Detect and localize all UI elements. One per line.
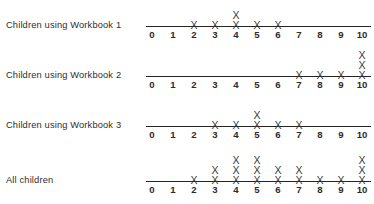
axis-tick-label: 0: [143, 29, 161, 41]
axis-tick-label: 9: [332, 129, 350, 141]
data-point-stack: X: [311, 175, 329, 185]
data-point-mark: X: [269, 175, 287, 185]
data-point-stack: X: [269, 120, 287, 130]
axis-tick-label: 4: [227, 79, 245, 91]
series-label: Children using Workbook 1: [6, 20, 121, 31]
data-point-mark: X: [185, 20, 203, 30]
data-point-stack: XXX: [248, 155, 266, 185]
data-point-mark: X: [332, 70, 350, 80]
data-point-mark: X: [185, 175, 203, 185]
data-point-mark: X: [269, 20, 287, 30]
axis-tick-label: 10: [353, 29, 371, 41]
data-point-stack: X: [248, 20, 266, 30]
data-point-mark: X: [311, 175, 329, 185]
axis-tick-label: 6: [269, 79, 287, 91]
series-label: Children using Workbook 2: [6, 70, 121, 81]
data-point-mark: X: [248, 175, 266, 185]
axis-tick-label: 2: [185, 129, 203, 141]
axis-tick-label: 5: [248, 79, 266, 91]
axis-tick-label: 10: [353, 129, 371, 141]
axis-tick-label: 8: [311, 129, 329, 141]
data-point-stack: X: [311, 70, 329, 80]
data-point-mark: X: [248, 120, 266, 130]
data-point-stack: XXX: [227, 155, 245, 185]
data-point-stack: XX: [206, 165, 224, 185]
data-point-mark: X: [227, 175, 245, 185]
data-point-mark: X: [248, 20, 266, 30]
data-point-stack: X: [206, 20, 224, 30]
data-point-stack: X: [290, 70, 308, 80]
data-point-mark: X: [206, 20, 224, 30]
series-label: All children: [6, 175, 53, 186]
axis-tick-label: 8: [311, 29, 329, 41]
axis-tick-label: 2: [185, 79, 203, 91]
data-point-mark: X: [206, 175, 224, 185]
data-point-mark: X: [353, 175, 371, 185]
data-point-mark: X: [290, 70, 308, 80]
data-point-stack: XX: [227, 10, 245, 30]
axis-tick-label: 1: [164, 184, 182, 196]
data-point-stack: XX: [248, 110, 266, 130]
axis-tick-label: 0: [143, 129, 161, 141]
data-point-stack: XXX: [353, 155, 371, 185]
axis-tick-label: 9: [332, 29, 350, 41]
axis-tick-label: 3: [206, 79, 224, 91]
series-label: Children using Workbook 3: [6, 120, 121, 131]
data-point-stack: XX: [269, 165, 287, 185]
data-point-mark: X: [332, 175, 350, 185]
data-point-stack: X: [206, 120, 224, 130]
data-point-stack: X: [185, 20, 203, 30]
data-point-mark: X: [353, 70, 371, 80]
axis-tick-label: 0: [143, 184, 161, 196]
data-point-stack: X: [332, 175, 350, 185]
data-point-mark: X: [269, 120, 287, 130]
data-point-stack: X: [290, 120, 308, 130]
axis-tick-label: 0: [143, 79, 161, 91]
data-point-mark: X: [290, 120, 308, 130]
axis-tick-label: 1: [164, 129, 182, 141]
axis-tick-label: 7: [290, 29, 308, 41]
data-point-mark: X: [227, 120, 245, 130]
data-point-stack: X: [269, 20, 287, 30]
data-point-stack: X: [185, 175, 203, 185]
data-point-stack: X: [227, 120, 245, 130]
dot-plot-chart: Children using Workbook 1012345678910XXX…: [0, 0, 374, 204]
axis-tick-label: 1: [164, 29, 182, 41]
data-point-stack: XX: [290, 165, 308, 185]
data-point-stack: X: [332, 70, 350, 80]
data-point-mark: X: [227, 20, 245, 30]
data-point-mark: X: [311, 70, 329, 80]
data-point-mark: X: [290, 175, 308, 185]
axis-tick-label: 1: [164, 79, 182, 91]
data-point-mark: X: [206, 120, 224, 130]
data-point-stack: XXX: [353, 50, 371, 80]
